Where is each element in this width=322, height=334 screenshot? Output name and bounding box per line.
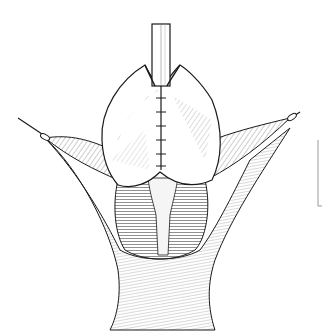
surgical-illustration (0, 0, 322, 334)
scale-bracket (318, 140, 322, 206)
left-retractor-hook (18, 118, 45, 136)
